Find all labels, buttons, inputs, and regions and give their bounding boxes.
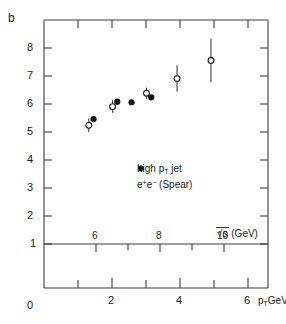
y-tick-label-6: 6 <box>27 98 33 109</box>
series-open-circle <box>86 39 214 132</box>
y-axis-ticks <box>44 48 52 244</box>
data-point-open <box>208 58 214 64</box>
x-tick-label-6: 6 <box>244 295 250 306</box>
data-point-filled <box>114 99 120 105</box>
legend-entry-high-pt-jet: high pT jet <box>137 164 192 175</box>
y-axis-title: b <box>8 12 15 24</box>
x-tick-label-2: 2 <box>108 295 114 306</box>
data-point-open <box>110 104 116 110</box>
y-tick-label-0: 0 <box>27 300 33 311</box>
y-tick-label-3: 3 <box>27 182 33 193</box>
data-point-open <box>144 90 150 96</box>
legend-entry-ee-spear: e+e− (Spear) <box>137 179 192 190</box>
secondary-sqrt-s-axis <box>44 244 268 252</box>
data-point-filled <box>148 94 154 100</box>
y-tick-label-1: 1 <box>30 238 36 249</box>
filled-circle-icon <box>137 164 145 172</box>
right-axis-ticks <box>260 48 268 244</box>
plot-canvas <box>0 0 286 324</box>
legend: high pT jet e+e− (Spear) <box>137 164 192 189</box>
data-point-open <box>174 76 180 82</box>
y-tick-label-4: 4 <box>27 154 33 165</box>
y-tick-label-7: 7 <box>27 70 33 81</box>
bottom-axis-ticks <box>78 278 248 288</box>
data-point-filled <box>90 116 96 122</box>
plot-frame <box>44 20 268 288</box>
scatter-plot-figure: b 8 7 6 5 4 3 2 1 0 6 8 10 √s (GeV) 2 4 … <box>0 0 286 324</box>
y-tick-label-5: 5 <box>27 126 33 137</box>
secondary-axis-title: √s (GeV) <box>216 229 258 239</box>
secondary-tick-label-6: 6 <box>92 231 98 241</box>
data-point-filled <box>128 99 134 105</box>
y-tick-label-2: 2 <box>27 210 33 221</box>
data-points-layer <box>86 39 214 132</box>
legend-label-ee-spear: e+e− (Spear) <box>137 179 192 190</box>
series-filled-circle <box>90 94 154 122</box>
secondary-tick-label-8: 8 <box>156 231 162 241</box>
y-tick-label-8: 8 <box>27 42 33 53</box>
x-axis-title: pTGeV/c <box>258 296 286 307</box>
top-axis-ticks <box>78 20 248 28</box>
x-tick-label-4: 4 <box>176 295 182 306</box>
data-point-open <box>86 122 92 128</box>
